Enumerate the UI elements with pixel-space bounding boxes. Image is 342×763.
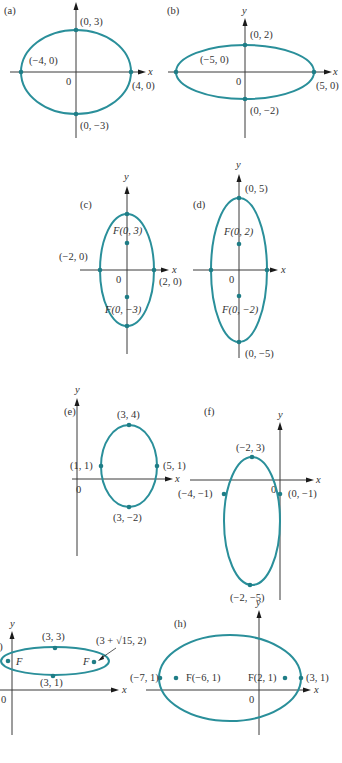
panel-d: (d) y x 0 (0, 5) (0, −5) F(0, 2) F(0, −2… bbox=[193, 159, 286, 360]
panel-label: (e) bbox=[64, 406, 76, 418]
point-label: (3, 4) bbox=[117, 409, 140, 421]
point bbox=[74, 112, 79, 117]
panel-b: (b) y x 0 (0, 2) (−5, 0) (5, 0) (0, −2) bbox=[167, 5, 339, 138]
panel-label: (d) bbox=[193, 199, 206, 211]
point-label: (−5, 0) bbox=[200, 54, 229, 66]
y-axis-label: y bbox=[255, 597, 261, 608]
point-label: (0, 5) bbox=[245, 183, 268, 195]
point-label: (−2, 0) bbox=[59, 251, 88, 263]
x-axis-label: x bbox=[174, 473, 180, 484]
origin-label: 0 bbox=[116, 274, 121, 285]
point bbox=[237, 340, 242, 345]
ellipse bbox=[224, 457, 280, 585]
point bbox=[125, 212, 130, 217]
y-axis-label: y bbox=[123, 171, 129, 182]
y-axis-label: y bbox=[235, 159, 241, 170]
focus-label: F(0, −3) bbox=[104, 304, 142, 316]
point bbox=[19, 70, 24, 75]
point-label: (4, 0) bbox=[132, 80, 155, 92]
panel-label: (f) bbox=[204, 406, 215, 418]
point bbox=[174, 70, 179, 75]
focus-point bbox=[125, 295, 130, 300]
y-axis-label: y bbox=[74, 384, 80, 395]
origin-label: 0 bbox=[236, 76, 241, 87]
focus-point bbox=[174, 676, 179, 681]
point bbox=[125, 324, 130, 329]
focus-label: F(0, −2) bbox=[221, 304, 259, 316]
point-label: (0, −3) bbox=[80, 120, 109, 132]
point-label: (3, −2) bbox=[113, 512, 142, 524]
y-axis-arrow-icon bbox=[125, 186, 130, 194]
x-axis-arrow-icon bbox=[324, 70, 332, 75]
x-axis-arrow-icon bbox=[270, 268, 278, 273]
point-label: (5, 1) bbox=[163, 460, 186, 472]
point bbox=[152, 268, 157, 273]
origin-label: 0 bbox=[249, 694, 254, 705]
point-label: (0, 2) bbox=[250, 29, 273, 41]
y-axis-arrow-icon bbox=[257, 610, 262, 618]
point-label: (−4, −1) bbox=[178, 488, 213, 500]
origin-label: 0 bbox=[76, 484, 81, 495]
x-axis-arrow-icon bbox=[111, 688, 119, 693]
panel-f: (f) y x 0 (−2, 3) (−4, −1) (0, −1) (−2, … bbox=[178, 406, 321, 604]
origin-label: 0 bbox=[66, 76, 71, 87]
focus-label: F(0, 2) bbox=[223, 226, 254, 238]
y-axis-arrow-icon bbox=[237, 174, 242, 182]
x-axis-label: x bbox=[332, 66, 338, 77]
y-axis-arrow-icon bbox=[10, 631, 15, 639]
point-label: (3, 1) bbox=[306, 672, 329, 684]
point-label: (5, 0) bbox=[316, 80, 339, 92]
leader-arrow-icon bbox=[98, 655, 104, 661]
origin-label: 0 bbox=[1, 694, 6, 705]
y-axis-label: y bbox=[9, 618, 15, 629]
focus-point bbox=[237, 242, 242, 247]
point-label: (2, 0) bbox=[159, 276, 182, 288]
panel-a: (a) x 0 (0, 3) (−4, 0) (4, 0) (0, −3) bbox=[4, 2, 155, 138]
x-axis-arrow-icon bbox=[306, 478, 314, 483]
x-axis-label: x bbox=[147, 66, 153, 77]
point bbox=[99, 464, 104, 469]
focus-point bbox=[92, 660, 97, 665]
point bbox=[237, 196, 242, 201]
point bbox=[74, 28, 79, 33]
ellipse bbox=[159, 635, 301, 721]
point-label: (0, −1) bbox=[288, 488, 317, 500]
x-axis-label: x bbox=[171, 264, 177, 275]
x-axis-label: x bbox=[280, 264, 286, 275]
point-label: (0, −5) bbox=[245, 348, 274, 360]
focus-label: F bbox=[15, 656, 23, 667]
point-label: (−2, 3) bbox=[236, 442, 265, 454]
point-label: (−7, 1) bbox=[130, 672, 159, 684]
x-axis-arrow-icon bbox=[161, 268, 169, 273]
ellipse-figure: (a) x 0 (0, 3) (−4, 0) (4, 0) (0, −3) (b… bbox=[0, 0, 342, 763]
ellipse bbox=[101, 425, 157, 507]
point bbox=[250, 455, 255, 460]
point-label: (−4, 0) bbox=[29, 55, 58, 67]
focus-label: F(−6, 1) bbox=[186, 672, 221, 684]
panel-e: (e) y x 0 (3, 4) (1, 1) (5, 1) (3, −2) bbox=[64, 384, 186, 556]
focus-point bbox=[237, 294, 242, 299]
point-label: (3, 1) bbox=[40, 677, 63, 689]
panel-h: (h) y x 0 (−7, 1) (3, 1) F(−6, 1) F(2, 1… bbox=[130, 597, 329, 735]
y-axis-label: y bbox=[241, 5, 247, 16]
y-axis-label: y bbox=[277, 409, 283, 420]
panel-label: (c) bbox=[80, 199, 92, 211]
focus-label: F(0, 3) bbox=[112, 225, 143, 237]
y-axis-arrow-icon bbox=[75, 398, 80, 406]
point bbox=[299, 676, 304, 681]
point-label: (1, 1) bbox=[70, 460, 93, 472]
x-axis-arrow-icon bbox=[138, 70, 146, 75]
point bbox=[53, 646, 58, 651]
panel-c: (c) y x 0 F(0, 3) F(0, −3) (−2, 0) (2, 0… bbox=[59, 171, 182, 354]
x-axis-arrow-icon bbox=[165, 477, 173, 482]
point-label: (0, 3) bbox=[80, 16, 103, 28]
point bbox=[265, 268, 270, 273]
y-axis-arrow-icon bbox=[74, 2, 79, 10]
point bbox=[312, 70, 317, 75]
origin-label: 0 bbox=[229, 274, 234, 285]
point-label: (0, −2) bbox=[250, 105, 279, 117]
point bbox=[98, 268, 103, 273]
focus-label: F bbox=[82, 656, 90, 667]
focus-point bbox=[283, 676, 288, 681]
focus-label: F(2, 1) bbox=[248, 672, 277, 684]
